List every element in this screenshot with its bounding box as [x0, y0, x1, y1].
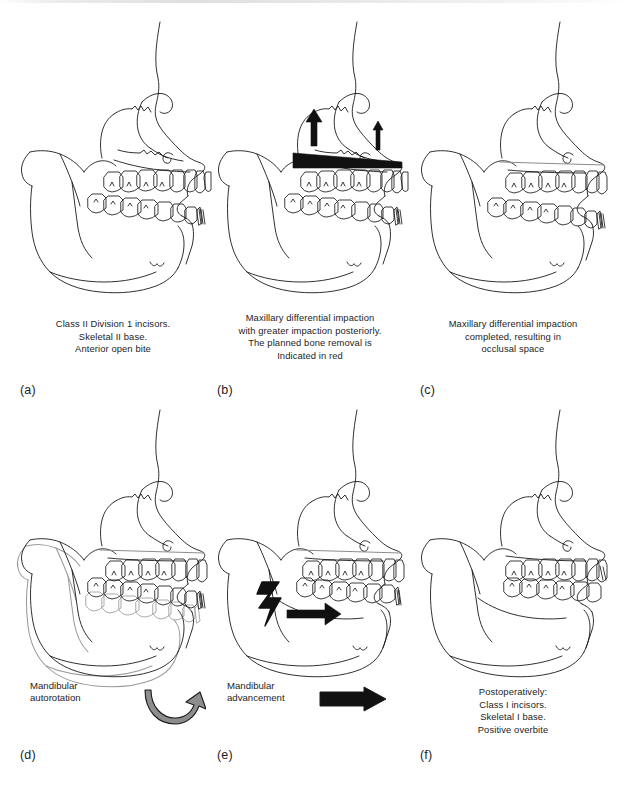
caption-f-line-1: Postoperatively:	[416, 686, 610, 699]
panel-b: Maxillary differential impaction with gr…	[205, 10, 415, 403]
caption-c: Maxillary differential impaction complet…	[416, 318, 610, 356]
panel-f: Postoperatively: Class I incisors. Skele…	[408, 398, 618, 786]
page-edge-artifact	[0, 0, 630, 3]
panel-letter-a: (a)	[20, 383, 36, 397]
annotation-d-line-1: Mandibular	[30, 680, 81, 692]
panel-letter-b: (b)	[217, 383, 233, 397]
annotation-e-line-1: Mandibular	[227, 680, 285, 692]
advancement-arrow-icon	[287, 603, 341, 625]
caption-b-line-2: with greater impaction posteriorly.	[213, 325, 407, 338]
impaction-arrow-posterior	[306, 109, 322, 146]
caption-a-line-2: Skeletal II base.	[16, 331, 210, 344]
annotation-d-line-2: autorotation	[30, 692, 81, 704]
panel-c: Maxillary differential impaction complet…	[408, 10, 618, 403]
skull-tracing-a	[8, 10, 218, 320]
caption-c-line-1: Maxillary differential impaction	[416, 318, 610, 331]
panel-letter-c: (c)	[420, 383, 435, 397]
caption-b-line-1: Maxillary differential impaction	[213, 312, 407, 325]
caption-b-line-3: The planned bone removal is	[213, 337, 407, 350]
osteotomy-reference-line-e	[297, 550, 401, 553]
annotation-e-line-2: advancement	[227, 692, 285, 704]
bone-removal-wedge	[293, 153, 402, 168]
skull-tracing-b	[205, 10, 415, 320]
skull-tracing-c	[408, 10, 618, 320]
caption-f: Postoperatively: Class I incisors. Skele…	[416, 686, 610, 736]
panel-letter-d: (d)	[20, 748, 36, 762]
caption-f-line-4: Positive overbite	[416, 724, 610, 737]
caption-c-line-3: occlusal space	[416, 343, 610, 356]
caption-b-line-4: Indicated in red	[213, 350, 407, 363]
panel-d: Mandibular autorotation (d)	[8, 398, 218, 786]
pre-rotation-mandible-overlay	[17, 545, 200, 687]
caption-a-line-1: Class II Division 1 incisors.	[16, 318, 210, 331]
straight-right-arrow-icon	[318, 686, 388, 712]
sagittal-split-osteotomy-icon	[257, 582, 281, 626]
skull-tracing-d	[8, 398, 218, 708]
skull-tracing-f	[408, 398, 618, 708]
caption-f-line-3: Skeletal I base.	[416, 711, 610, 724]
osteotomy-reference-line	[500, 162, 604, 165]
cut-off-footer	[0, 776, 630, 786]
caption-a: Class II Division 1 incisors. Skeletal I…	[16, 318, 210, 356]
curved-rotation-arrow-icon	[144, 668, 206, 726]
panel-letter-f: (f)	[420, 748, 432, 762]
caption-b: Maxillary differential impaction with gr…	[213, 312, 407, 362]
annotation-e-label: Mandibular advancement	[227, 680, 285, 705]
figure-container: Class II Division 1 incisors. Skeletal I…	[0, 0, 630, 786]
osteotomy-reference-line-d	[100, 550, 204, 553]
panel-a: Class II Division 1 incisors. Skeletal I…	[8, 10, 218, 403]
caption-f-line-2: Class I incisors.	[416, 699, 610, 712]
caption-c-line-2: completed, resulting in	[416, 331, 610, 344]
caption-a-line-3: Anterior open bite	[16, 343, 210, 356]
annotation-d-label: Mandibular autorotation	[30, 680, 81, 705]
impaction-arrow-anterior	[373, 121, 383, 150]
panel-e: Mandibular advancement (e)	[205, 398, 415, 786]
skull-tracing-e	[205, 398, 415, 708]
panel-letter-e: (e)	[217, 748, 233, 762]
